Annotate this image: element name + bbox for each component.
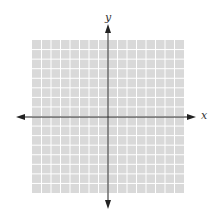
x-axis-label: x <box>201 109 207 122</box>
y-axis-label: y <box>105 11 111 24</box>
x-axis-left-arrow-icon <box>16 114 25 120</box>
y-axis-down-arrow-icon <box>105 200 111 209</box>
x-axis-right-arrow-icon <box>187 114 196 120</box>
coordinate-plane <box>0 0 215 220</box>
y-axis-up-arrow-icon <box>105 24 111 33</box>
